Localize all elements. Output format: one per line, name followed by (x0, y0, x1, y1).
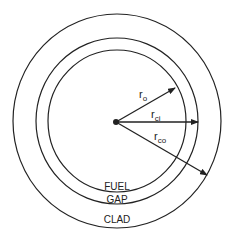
label-rci: rci (151, 108, 161, 123)
region-label-gap: GAP (106, 194, 127, 205)
region-label-fuel: FUEL (104, 181, 130, 192)
label-ro: ro (139, 88, 148, 103)
fuel-rod-diagram: ro rci rco FUEL GAP CLAD (0, 0, 233, 241)
region-label-clad: CLAD (104, 214, 131, 225)
label-rco: rco (154, 130, 167, 145)
